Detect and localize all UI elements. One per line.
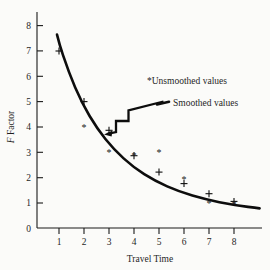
callout-arrowhead [104, 131, 113, 137]
smoothed-values-curve [57, 35, 260, 209]
chart-screenshot: 8 7 6 5 4 3 2 1 0 1 2 3 4 5 [0, 0, 270, 270]
y-tick-label-0: 0 [26, 224, 31, 234]
axes-group [37, 12, 262, 228]
y-tick-label-8: 8 [26, 21, 31, 31]
legend-unsmoothed-label: *Unsmoothed values [147, 76, 227, 86]
chart-plot-area: 8 7 6 5 4 3 2 1 0 1 2 3 4 5 [0, 0, 270, 270]
x-tick-label-3: 3 [107, 237, 112, 247]
unsmoothed-point-4: * [132, 150, 137, 161]
unsmoothed-point-7: * [207, 198, 212, 209]
x-tick-label-1: 1 [57, 237, 62, 247]
x-tick-marks [59, 228, 234, 234]
x-axis-title: Travel Time [127, 254, 173, 264]
unsmoothed-values-markers: * * * * * * * [82, 122, 237, 210]
y-tick-label-7: 7 [26, 46, 31, 56]
y-tick-label-6: 6 [26, 72, 31, 82]
x-tick-labels: 1 2 3 4 5 6 7 8 [57, 237, 237, 247]
svg-text:F Factor: F Factor [6, 110, 16, 144]
legend-smoothed-label: Smoothed values [173, 98, 238, 108]
y-tick-label-3: 3 [26, 148, 31, 158]
smoothed-values-callout-leader [104, 102, 164, 137]
y-tick-label-2: 2 [26, 173, 31, 183]
y-axis-title: F Factor [6, 110, 16, 144]
y-tick-label-1: 1 [26, 198, 31, 208]
x-tick-label-4: 4 [132, 237, 137, 247]
y-tick-marks [37, 26, 43, 203]
y-tick-labels: 8 7 6 5 4 3 2 1 0 [26, 21, 31, 234]
unsmoothed-point-3: * [107, 147, 112, 158]
x-tick-label-2: 2 [82, 237, 87, 247]
y-axis-title-rest-part: Factor [6, 110, 16, 137]
unsmoothed-point-5: * [157, 147, 162, 158]
x-tick-label-6: 6 [182, 237, 187, 247]
x-tick-label-5: 5 [157, 237, 162, 247]
x-tick-label-7: 7 [207, 237, 212, 247]
unsmoothed-point-2: * [82, 122, 87, 133]
unsmoothed-point-6: * [182, 174, 187, 185]
unsmoothed-point-8: * [232, 199, 237, 210]
y-tick-label-4: 4 [26, 122, 31, 132]
x-tick-label-8: 8 [232, 237, 237, 247]
y-tick-label-5: 5 [26, 97, 31, 107]
